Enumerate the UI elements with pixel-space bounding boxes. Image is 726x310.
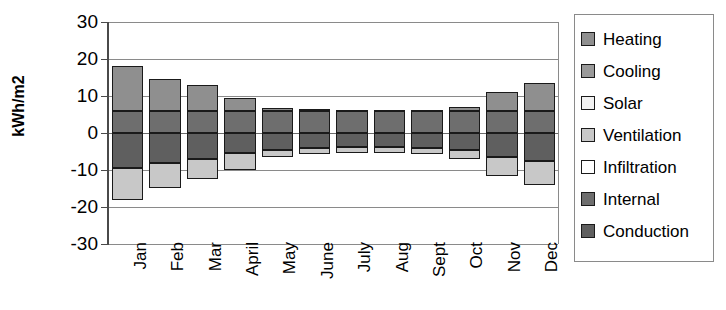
bar-segment: [449, 107, 480, 111]
bar-segment: [486, 157, 517, 176]
bar-segment: [411, 148, 442, 155]
bar-segment: [149, 111, 180, 133]
legend-item-label: Conduction: [603, 223, 689, 240]
x-axis-tick-label: April: [245, 242, 261, 304]
bar-segment: [411, 111, 442, 133]
bar-segment: [336, 133, 367, 147]
bar-segment: [224, 133, 255, 153]
x-axis-tick-label: Oct: [469, 242, 485, 304]
bar-segment: [262, 108, 293, 111]
bar-group[interactable]: [486, 22, 517, 244]
plot-area: 3020100-10-20-30: [107, 22, 559, 244]
bar-segment: [149, 133, 180, 163]
bar-segment: [449, 150, 480, 159]
bar-segment: [224, 153, 255, 170]
bar-segment: [374, 133, 405, 147]
bar-segment: [374, 147, 405, 153]
bar-group[interactable]: [262, 22, 293, 244]
y-axis-tick-label: 30: [38, 11, 98, 33]
bar-segment: [524, 111, 555, 133]
x-axis-tick-label: Dec: [544, 242, 560, 304]
legend-swatch-icon: [581, 32, 595, 46]
bar-group[interactable]: [374, 22, 405, 244]
legend-item[interactable]: Infiltration: [581, 151, 713, 183]
legend-swatch-icon: [581, 160, 595, 174]
x-axis-tick-label: Aug: [395, 242, 411, 304]
legend-item-label: Ventilation: [603, 127, 681, 144]
bar-segment: [299, 148, 330, 155]
bar-group[interactable]: [187, 22, 218, 244]
y-axis-tick: [101, 133, 109, 134]
legend-item-label: Solar: [603, 95, 643, 112]
bar-segment: [486, 111, 517, 133]
bar-segment: [524, 161, 555, 185]
y-axis-tick: [101, 59, 109, 60]
chart-legend: HeatingCoolingSolarVentilationInfiltrati…: [574, 14, 714, 262]
bar-segment: [374, 111, 405, 133]
bar-group[interactable]: [411, 22, 442, 244]
chart-root: kWh/m2 3020100-10-20-30 JanFebMarAprilMa…: [0, 0, 726, 310]
bar-segment: [262, 150, 293, 157]
legend-item[interactable]: Conduction: [581, 215, 713, 247]
y-axis-tick-label: 10: [38, 85, 98, 107]
y-axis-tick: [101, 170, 109, 171]
x-axis-tick-label: June: [320, 242, 336, 304]
bar-segment: [374, 110, 405, 112]
y-axis-tick: [101, 96, 109, 97]
bar-segment: [524, 83, 555, 111]
bar-segment: [224, 111, 255, 133]
bar-segment: [149, 163, 180, 189]
x-axis-tick-label: July: [357, 242, 373, 304]
y-axis-title: kWh/m2: [10, 51, 32, 161]
x-axis-tick-label: Nov: [507, 242, 523, 304]
bar-segment: [299, 111, 330, 133]
legend-item[interactable]: Solar: [581, 87, 713, 119]
bar-segment: [112, 168, 143, 199]
bar-group[interactable]: [112, 22, 143, 244]
x-axis-tick-label: May: [282, 242, 298, 304]
bar-segment: [224, 98, 255, 111]
bar-segment: [411, 133, 442, 148]
bar-group[interactable]: [449, 22, 480, 244]
bar-segment: [187, 159, 218, 179]
bar-segment: [486, 92, 517, 111]
bar-segment: [262, 133, 293, 150]
y-axis-tick-label: 20: [38, 48, 98, 70]
legend-item[interactable]: Cooling: [581, 55, 713, 87]
bar-segment: [112, 133, 143, 168]
bar-group[interactable]: [524, 22, 555, 244]
legend-swatch-icon: [581, 64, 595, 78]
x-axis-tick-label: Jan: [133, 242, 149, 304]
bar-segment: [112, 66, 143, 110]
legend-item-label: Heating: [603, 31, 662, 48]
y-axis-tick: [101, 244, 109, 245]
bar-group[interactable]: [299, 22, 330, 244]
bar-segment: [299, 133, 330, 148]
bar-segment: [411, 110, 442, 112]
y-axis-tick: [101, 207, 109, 208]
bar-segment: [449, 133, 480, 150]
legend-item-label: Internal: [603, 191, 660, 208]
legend-item-label: Cooling: [603, 63, 661, 80]
legend-item[interactable]: Heating: [581, 23, 713, 55]
legend-swatch-icon: [581, 224, 595, 238]
y-axis-tick-label: 0: [38, 122, 98, 144]
x-axis-tick-label: Feb: [170, 242, 186, 304]
bar-group[interactable]: [224, 22, 255, 244]
legend-item[interactable]: Internal: [581, 183, 713, 215]
bar-segment: [524, 133, 555, 161]
bar-segment: [112, 111, 143, 133]
bar-segment: [187, 85, 218, 111]
bar-segment: [187, 133, 218, 159]
legend-item[interactable]: Ventilation: [581, 119, 713, 151]
legend-swatch-icon: [581, 192, 595, 206]
bar-group[interactable]: [336, 22, 367, 244]
bar-segment: [336, 147, 367, 153]
bar-group[interactable]: [149, 22, 180, 244]
bar-segment: [187, 111, 218, 133]
bar-segment: [149, 79, 180, 110]
legend-swatch-icon: [581, 128, 595, 142]
bar-segment: [486, 133, 517, 157]
x-axis-tick-label: Sept: [432, 242, 448, 304]
bar-segment: [262, 111, 293, 133]
